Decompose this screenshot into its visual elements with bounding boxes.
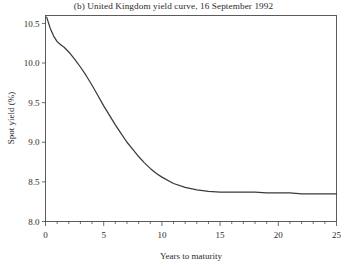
x-axis-title: Years to maturity [160, 251, 223, 261]
x-axis-tick-labels: 0510152025 [43, 230, 341, 240]
y-tick-label: 9.5 [28, 98, 40, 108]
y-axis-tick-labels: 8.08.59.09.510.010.5 [24, 19, 40, 227]
x-tick-label: 5 [101, 230, 106, 240]
figure-container: (b) United Kingdom yield curve, 16 Septe… [0, 0, 347, 268]
x-tick-label: 20 [274, 230, 284, 240]
y-axis-ticks [42, 23, 46, 221]
x-tick-label: 10 [157, 230, 167, 240]
yield-curve-series [47, 17, 337, 194]
x-tick-label: 25 [332, 230, 342, 240]
x-axis-ticks [46, 222, 337, 227]
y-tick-label: 8.0 [28, 217, 40, 227]
y-axis-title: Spot yield (%) [6, 92, 16, 145]
y-tick-label: 9.0 [28, 137, 40, 147]
chart-plot: 8.08.59.09.510.010.5 0510152025 Spot yie… [0, 0, 347, 268]
y-tick-label: 8.5 [28, 177, 40, 187]
y-tick-label: 10.5 [24, 19, 40, 29]
x-tick-label: 0 [43, 230, 48, 240]
plot-frame [46, 16, 337, 222]
x-tick-label: 15 [216, 230, 226, 240]
y-tick-label: 10.0 [24, 58, 40, 68]
yield-curve-path [47, 17, 337, 194]
